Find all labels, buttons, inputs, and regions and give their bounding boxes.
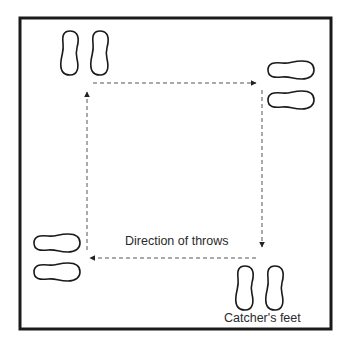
lower-foot-icon [34,263,80,281]
left-foot-icon [61,31,78,75]
feet-bottom-right [236,266,283,310]
feet-bottom-left [34,234,80,281]
outer-frame [20,18,331,329]
throwing-drill-diagram [0,0,349,349]
catcher-label: Catcher's feet [224,312,301,325]
left-foot-icon [236,266,253,310]
feet-top-left [61,31,108,75]
right-foot-icon [266,266,283,310]
upper-foot-icon [34,234,80,252]
direction-label: Direction of throws [125,235,229,248]
feet-top-right [268,61,314,109]
lower-foot-icon [268,91,314,109]
upper-foot-icon [268,61,314,79]
right-foot-icon [91,31,108,75]
